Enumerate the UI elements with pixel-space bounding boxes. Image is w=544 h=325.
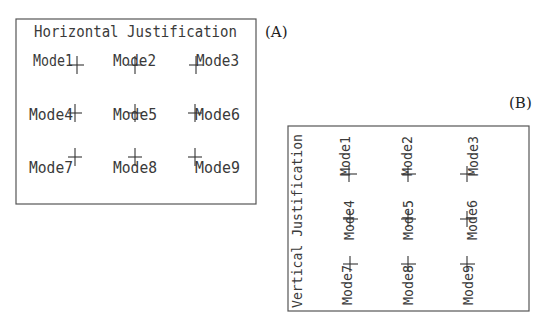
panel-b-mode1-label: Mode1 xyxy=(337,136,353,176)
panel-a-title: Horizontal Justification xyxy=(34,23,237,41)
panel-b-mode7-label: Mode7 xyxy=(339,265,355,305)
panel-b-mode9-label: Mode9 xyxy=(460,265,476,305)
panel-a-mode6-label: Mode6 xyxy=(195,106,240,124)
panel-a-mode1-label: Mode1 xyxy=(33,52,73,70)
panel-a-label: (A) xyxy=(265,23,288,41)
panel-a: (A) Horizontal Justification Mode1 Mode2… xyxy=(16,19,288,204)
panel-a-mode9-label: Mode9 xyxy=(195,159,240,177)
panel-b: (B) Vertical Justification Mode1 Mode2 M… xyxy=(288,94,532,311)
panel-b-label: (B) xyxy=(509,94,532,112)
panel-a-mode7-label: Mode7 xyxy=(29,159,73,177)
panel-b-mode4-label: Mode4 xyxy=(341,200,357,240)
panel-a-mode3-label: Mode3 xyxy=(196,52,239,70)
panel-b-mode2-label: Mode2 xyxy=(399,136,415,176)
panel-b-mode6-label: Mode6 xyxy=(464,200,480,240)
panel-a-mode4-label: Mode4 xyxy=(29,106,73,124)
justification-diagram: (A) Horizontal Justification Mode1 Mode2… xyxy=(0,0,544,325)
panel-b-title: Vertical Justification xyxy=(289,134,305,308)
